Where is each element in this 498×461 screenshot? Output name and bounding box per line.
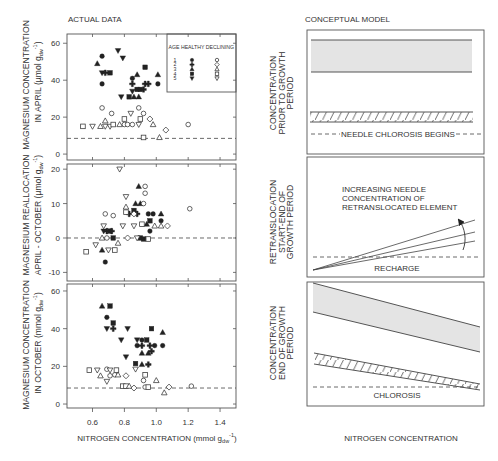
actual-data-title: ACTUAL DATA [68, 15, 122, 24]
hatched-band-bottom [314, 364, 480, 390]
y-axis-label-line2: APRIL - OCTOBER (µmol gdw-1) [32, 155, 44, 276]
square-marker-icon [138, 117, 143, 122]
circle-marker-icon [105, 315, 110, 320]
circle-marker-icon [148, 229, 153, 234]
circle-marker-icon [186, 122, 191, 127]
cross-marker-icon [147, 343, 153, 349]
triangle-up-marker-icon [161, 390, 167, 395]
x-axis-label-main: NITROGEN CONCENTRATION (mmol g [77, 434, 222, 443]
legend-box [167, 34, 236, 92]
circle-marker-icon [152, 343, 157, 348]
triangle-down-marker-icon [133, 367, 139, 372]
x-tick-label: 1.0 [151, 418, 163, 427]
y-label-unit-sub: dw [38, 300, 44, 307]
square-marker-icon [111, 321, 116, 326]
square-marker-icon [215, 72, 218, 75]
triangle-down-marker-icon [130, 89, 136, 94]
x-tick-label: 0.8 [119, 418, 131, 427]
scatter-panel-reallocation: -1001020MAGNESIUM REALLOCATIONAPRIL - OC… [21, 154, 237, 281]
series-declining [81, 106, 191, 140]
triangle-up-marker-icon [117, 122, 123, 127]
diamond-marker-icon [215, 62, 220, 67]
diamond-marker-icon [131, 385, 137, 391]
triangle-down-marker-icon [117, 167, 123, 172]
circle-marker-icon [136, 106, 141, 111]
circle-marker-icon [187, 206, 192, 211]
circle-marker-icon [130, 76, 135, 81]
y-label-text: APRIL - OCTOBER [33, 198, 43, 275]
square-marker-icon [144, 338, 149, 343]
x-axis-label-sub: dw [222, 438, 229, 444]
triangle-up-marker-icon [157, 135, 163, 140]
square-marker-icon [146, 385, 151, 390]
declining-hatched-band [310, 112, 473, 122]
triangle-down-marker-icon [104, 327, 110, 332]
model-panel-retranslocation: INCREASING NEEDLE CONCENTRATION OF RETRA… [268, 157, 484, 277]
diamond-marker-icon [147, 116, 153, 122]
y-label-text: IN APRIL [33, 85, 43, 122]
square-marker-icon [133, 361, 138, 366]
triangle-down-marker-icon [94, 368, 100, 373]
y-tick-label: 60 [51, 287, 60, 296]
circle-marker-icon [143, 191, 148, 196]
circle-marker-icon [189, 384, 194, 389]
y-label-unit: (µmol g [33, 169, 43, 198]
triangle-up-marker-icon [150, 122, 156, 127]
diamond-marker-icon [163, 127, 169, 133]
circle-marker-icon [143, 184, 148, 189]
triangle-up-marker-icon [136, 94, 142, 99]
y-tick-label: 0 [56, 150, 61, 159]
scatter-panels: 0204060MAGNESIUM CONCENTRATIONIN APRIL (… [21, 20, 237, 427]
x-tick-label: 1.4 [214, 418, 226, 427]
y-label-unit-sub: dw [38, 49, 44, 56]
y-label-unit: (mmol g [33, 307, 43, 338]
square-marker-icon [190, 72, 193, 75]
triangle-up-marker-icon [160, 330, 166, 335]
square-marker-icon [111, 122, 116, 127]
circle-marker-icon [141, 111, 146, 116]
square-marker-icon [111, 236, 116, 241]
triangle-up-marker-icon [98, 373, 104, 378]
cross-marker-icon [190, 63, 194, 67]
triangle-up-marker-icon [152, 223, 158, 228]
triangle-up-marker-icon [215, 67, 219, 71]
triangle-down-marker-icon [128, 111, 134, 116]
triangle-up-marker-icon [123, 204, 129, 209]
circle-marker-icon [135, 343, 140, 348]
cross-marker-icon [146, 362, 152, 368]
circle-marker-icon [105, 236, 110, 241]
circle-marker-icon [100, 54, 105, 59]
triangle-down-marker-icon [190, 77, 194, 81]
square-marker-icon [87, 368, 92, 373]
triangle-up-marker-icon [133, 201, 139, 206]
conceptual-model-title: CONCEPTUAL MODEL [305, 15, 391, 24]
scatter-panel-april: 0204060MAGNESIUM CONCENTRATIONIN APRIL (… [21, 20, 237, 160]
plot-frame [67, 34, 236, 160]
circle-marker-icon [125, 122, 130, 127]
diamond-marker-icon [123, 373, 129, 379]
square-marker-icon [143, 65, 148, 70]
triangle-down-marker-icon [118, 338, 124, 343]
y-tick-label: 40 [51, 76, 60, 85]
triangle-up-marker-icon [94, 61, 100, 66]
circle-marker-icon [141, 378, 146, 383]
triangle-up-marker-icon [131, 94, 137, 99]
circle-marker-icon [109, 111, 114, 116]
triangle-down-marker-icon [104, 379, 110, 384]
triangle-up-marker-icon [99, 247, 105, 252]
cross-marker-icon [110, 326, 116, 332]
series-declining [87, 367, 194, 395]
x-axis-label: NITROGEN CONCENTRATION (mmol gdw-1) [77, 432, 237, 444]
y-label-unit-sub: dw [38, 162, 44, 169]
declining-hatched-band [314, 353, 480, 390]
recharge-label: RECHARGE [374, 264, 419, 273]
circle-marker-icon [151, 212, 156, 217]
square-marker-icon [81, 124, 86, 129]
circle-marker-icon [103, 260, 108, 265]
y-label-text: IN OCTOBER [33, 338, 43, 394]
x-tick-label: 1.2 [183, 418, 195, 427]
triangle-down-marker-icon [106, 248, 112, 253]
model-panel-prior: NEEDLE CHLOROSIS BEGINS CONCENTRATION PR… [268, 30, 484, 154]
triangle-down-marker-icon [118, 95, 124, 100]
circle-marker-icon [215, 58, 218, 61]
